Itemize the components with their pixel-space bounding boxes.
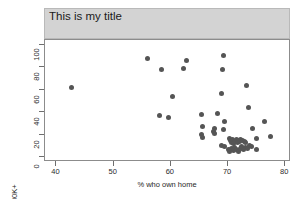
scatter-point xyxy=(262,119,267,124)
scatter-point xyxy=(268,134,273,139)
x-axis-tick-label: 80 xyxy=(272,167,296,176)
y-axis-tick-label: 60 xyxy=(32,87,41,111)
scatter-point xyxy=(215,111,220,116)
scatter-point xyxy=(145,56,150,61)
x-axis-label: % who own home xyxy=(44,180,290,189)
x-axis-tick-label: 50 xyxy=(101,167,125,176)
x-axis-tick xyxy=(55,161,56,166)
scatter-point xyxy=(254,136,259,141)
plot-area xyxy=(44,39,290,161)
scatter-point xyxy=(220,67,225,72)
scatter-point xyxy=(157,113,162,118)
scatter-point xyxy=(221,53,226,58)
scatter-point xyxy=(221,127,226,132)
scatter-point xyxy=(181,66,186,71)
chart-title-banner: This is my title xyxy=(44,8,290,39)
scatter-point xyxy=(166,115,171,120)
scatter-points-layer xyxy=(45,40,289,160)
x-axis-tick xyxy=(170,161,171,166)
scatter-point xyxy=(250,126,255,131)
y-axis-tick-label: 80 xyxy=(32,65,41,89)
scatter-point xyxy=(200,124,205,129)
x-axis-tick xyxy=(113,161,114,166)
scatter-point xyxy=(219,91,224,96)
x-axis-tick xyxy=(284,161,285,166)
scatter-point xyxy=(170,94,175,99)
scatter-point xyxy=(212,131,217,136)
chart-title: This is my title xyxy=(49,9,145,23)
scatter-point xyxy=(159,67,164,72)
y-axis-tick-label: 40 xyxy=(32,110,41,134)
y-axis-tick-label: 100 xyxy=(32,42,41,66)
scatter-point xyxy=(69,85,74,90)
x-axis-tick-label: 40 xyxy=(43,167,67,176)
scatter-plot-figure: This is my title 0204060801004050607080 … xyxy=(0,0,299,199)
x-axis-tick-label: 70 xyxy=(215,167,239,176)
y-axis-tick-label: 0 xyxy=(32,155,41,179)
scatter-point xyxy=(254,147,259,152)
x-axis-tick xyxy=(227,161,228,166)
scatter-point xyxy=(244,83,249,88)
y-axis-label: % homes cost $100K+ xyxy=(10,161,22,199)
scatter-point xyxy=(199,112,204,117)
scatter-point xyxy=(184,58,189,63)
scatter-point xyxy=(222,119,227,124)
scatter-point xyxy=(246,105,251,110)
y-axis-tick-label: 20 xyxy=(32,132,41,156)
x-axis-tick-label: 60 xyxy=(158,167,182,176)
scatter-point xyxy=(200,135,205,140)
